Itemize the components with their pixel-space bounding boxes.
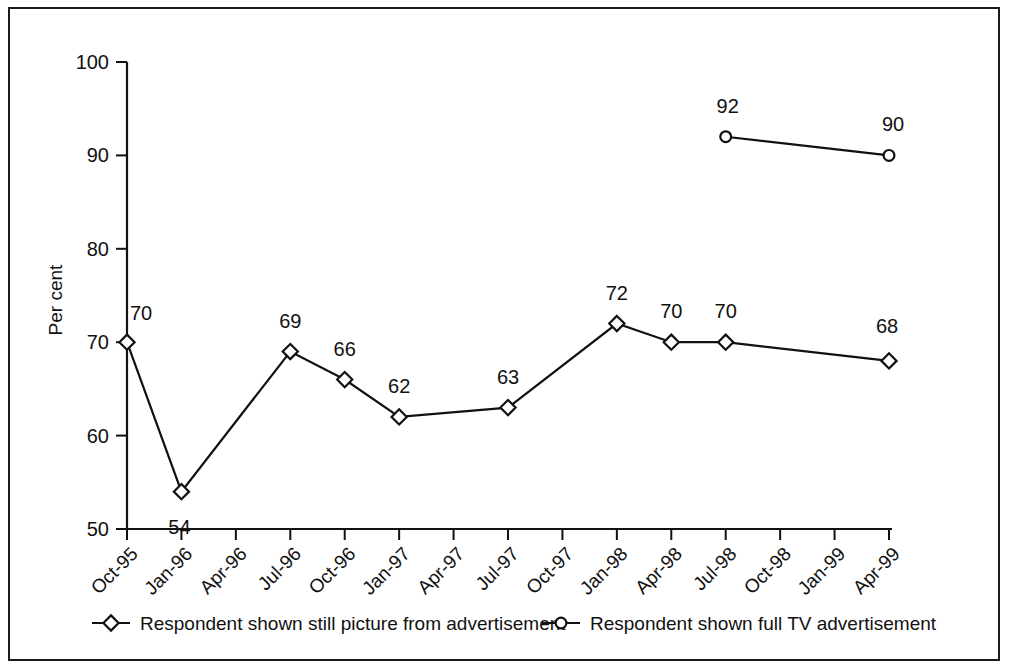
data-value-label: 90 (882, 113, 904, 135)
data-point-diamond-marker (119, 335, 134, 350)
y-axis-title: Per cent (45, 264, 66, 335)
x-tick-label: Oct-96 (304, 543, 359, 598)
data-point-circle-marker (556, 618, 567, 629)
data-value-label: 70 (715, 300, 737, 322)
line-chart: 5060708090100 Oct-95Jan-96Apr-96Jul-96Oc… (0, 0, 1010, 671)
y-axis-title-label: Per cent (45, 264, 66, 335)
x-axis: Oct-95Jan-96Apr-96Jul-96Oct-96Jan-97Apr-… (87, 529, 904, 599)
data-value-label: 72 (606, 282, 628, 304)
y-tick-label: 100 (76, 51, 109, 73)
y-tick-label: 60 (87, 425, 109, 447)
x-tick-label: Jan-98 (576, 543, 632, 599)
data-value-label: 70 (130, 302, 152, 324)
data-value-label: 54 (168, 516, 190, 538)
data-value-label: 92 (717, 95, 739, 117)
y-tick-label: 90 (87, 144, 109, 166)
x-tick-label: Oct-95 (87, 543, 142, 598)
data-point-diamond-marker (337, 372, 352, 387)
x-tick-label: Apr-98 (631, 543, 686, 598)
series-layer (119, 131, 896, 499)
x-tick-label: Jan-99 (793, 543, 849, 599)
data-value-label: 62 (388, 375, 410, 397)
y-tick-label: 50 (87, 518, 109, 540)
data-point-circle-marker (720, 131, 731, 142)
x-tick-label: Apr-96 (196, 543, 251, 598)
x-tick-label: Oct-97 (522, 543, 577, 598)
data-point-diamond-marker (881, 353, 896, 368)
chart-legend: Respondent shown still picture from adve… (92, 613, 937, 634)
data-value-label: 68 (876, 315, 898, 337)
x-tick-label: Oct-98 (740, 543, 795, 598)
x-tick-label: Jul-98 (689, 543, 740, 594)
legend-label-1: Respondent shown still picture from adve… (140, 613, 566, 634)
x-tick-label: Jan-96 (140, 543, 196, 599)
data-point-diamond-marker (664, 335, 679, 350)
data-value-label: 69 (279, 310, 301, 332)
data-point-diamond-marker (718, 335, 733, 350)
x-tick-label: Jul-96 (254, 543, 305, 594)
x-tick-label: Jul-97 (471, 543, 522, 594)
data-value-label: 63 (497, 366, 519, 388)
data-value-label: 66 (334, 338, 356, 360)
data-point-diamond-marker (392, 409, 407, 424)
y-axis: 5060708090100 (76, 51, 127, 540)
series-polyline-2 (726, 137, 889, 156)
legend-label-2: Respondent shown full TV advertisement (590, 613, 937, 634)
data-point-circle-marker (884, 150, 895, 161)
x-tick-label: Apr-99 (849, 543, 904, 598)
x-tick-label: Jan-97 (358, 543, 414, 599)
y-tick-label: 80 (87, 238, 109, 260)
data-point-diamond-marker (103, 615, 118, 630)
data-value-labels: 705469666263727070689290 (130, 95, 904, 538)
data-value-label: 70 (660, 300, 682, 322)
x-tick-label: Apr-97 (413, 543, 468, 598)
y-tick-label: 70 (87, 331, 109, 353)
